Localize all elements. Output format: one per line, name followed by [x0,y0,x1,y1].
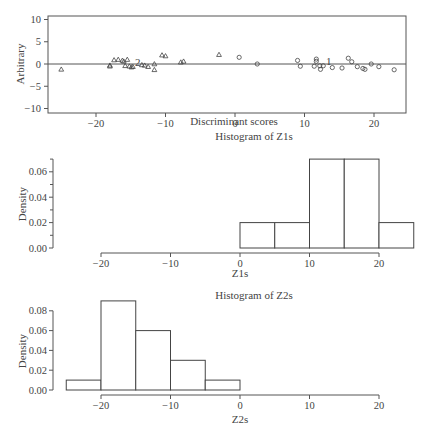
hist2-title: Histogram of Z2s [0,289,428,301]
circle-marker [340,66,344,70]
y-tick-label: 0.04 [29,192,48,203]
histogram-bar [379,223,414,248]
group-label: 2 [135,56,141,68]
histogram-bar [310,159,345,248]
y-tick-label: 0.08 [29,305,47,316]
histogram-bar [344,159,379,248]
histogram-bar [205,380,240,390]
x-tick-label: 20 [374,258,385,269]
triangle-marker [125,57,130,61]
clipped-caption [0,430,428,436]
y-tick-label: −5 [30,81,41,92]
circle-marker [377,65,381,69]
hist1-xlabel: Z1s [230,267,250,279]
y-tick-label: 0 [36,59,41,70]
histogram-bar [66,380,101,390]
scatter-plot [44,16,406,117]
circle-marker [346,56,350,60]
histogram-bar [275,223,310,248]
triangle-marker [116,57,121,61]
histogram-bar [171,360,206,390]
hist2-xlabel: Z2s [230,413,250,425]
group-label: 1 [326,55,332,67]
x-tick-label: 20 [374,400,385,411]
y-tick-label: 0.00 [29,243,47,254]
y-tick-label: 5 [36,36,41,47]
y-tick-label: 0.00 [29,385,47,396]
x-tick-label: −20 [93,258,109,269]
circle-marker [298,64,302,68]
x-tick-label: −20 [93,400,109,411]
circle-marker [355,65,359,69]
circle-marker [350,60,354,64]
y-tick-label: 0.04 [29,345,48,356]
x-tick-label: −10 [162,258,178,269]
histogram-z1s [49,159,414,257]
hist2-ylabel: Density [16,321,28,381]
circle-marker [392,68,396,72]
x-tick-label: 10 [304,400,315,411]
histogram-bar [136,331,171,390]
x-tick-label: −10 [162,400,178,411]
histogram-bar [240,223,275,248]
y-tick-label: 0.06 [29,325,47,336]
histogram-z2s [49,301,379,399]
x-tick-label: 10 [304,258,315,269]
hist1-ylabel: Density [16,174,28,234]
scatter-xlabel: Discriminant scores [0,115,428,127]
y-tick-label: 0.02 [29,365,47,376]
circle-marker [295,58,299,62]
triangle-marker [152,67,157,71]
x-tick-label: 0 [237,400,242,411]
histogram-bar [101,301,136,390]
circle-marker [312,64,316,68]
y-tick-label: 10 [31,14,42,25]
y-tick-label: 0.06 [29,166,47,177]
y-tick-label: 0.02 [29,217,47,228]
scatter-ylabel: Arbitrary [14,34,26,94]
triangle-marker [217,52,222,56]
hist1-title: Histogram of Z1s [0,130,428,142]
y-tick-label: −10 [25,103,41,114]
circle-marker [237,55,241,59]
figure-canvas: −10−50510−20−1001020210.000.020.040.06−2… [0,0,428,436]
triangle-marker [59,67,64,71]
